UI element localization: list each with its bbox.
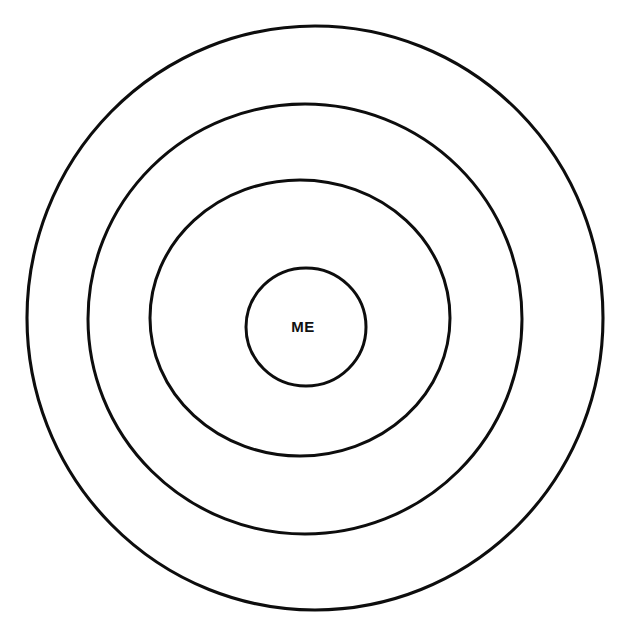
core-label: ME [291,318,314,335]
concentric-circles-diagram: ME [0,0,630,640]
outer-ring[interactable] [27,26,603,610]
diagram-canvas: ME [0,0,630,640]
